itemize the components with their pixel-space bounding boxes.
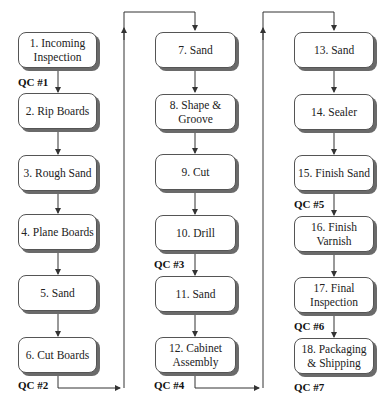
step-box-9: 9. Cut — [155, 154, 236, 190]
step-label: 3. Rough Sand — [23, 166, 91, 180]
flowchart-canvas: 1. Incoming Inspection 2. Rip Boards 3. … — [0, 0, 392, 406]
step-label: 14. Sealer — [311, 105, 357, 119]
qc-label-5: QC #5 — [294, 198, 324, 210]
step-label: 17. Final Inspection — [297, 281, 371, 309]
qc-label-6: QC #6 — [294, 320, 324, 332]
qc-label-4: QC #4 — [154, 379, 184, 391]
step-box-14: 14. Sealer — [294, 94, 374, 130]
step-box-5: 5. Sand — [18, 275, 97, 311]
step-box-15: 15. Finish Sand — [294, 155, 374, 191]
step-box-16: 16. Finish Varnish — [294, 216, 374, 252]
step-box-3: 3. Rough Sand — [18, 155, 97, 191]
step-label: 2. Rip Boards — [26, 104, 90, 118]
step-box-18: 18. Packaging & Shipping — [294, 338, 374, 374]
qc-label-7: QC #7 — [294, 381, 324, 393]
step-box-11: 11. Sand — [155, 276, 236, 312]
step-label: 18. Packaging & Shipping — [297, 342, 371, 370]
step-box-10: 10. Drill — [155, 215, 236, 251]
step-label: 9. Cut — [181, 165, 209, 179]
step-box-4: 4. Plane Boards — [18, 214, 97, 250]
step-label: 1. Incoming Inspection — [21, 36, 94, 64]
step-box-12: 12. Cabinet Assembly — [155, 337, 236, 373]
step-label: 15. Finish Sand — [298, 166, 370, 180]
step-label: 5. Sand — [40, 286, 75, 300]
step-label: 8. Shape & Groove — [158, 98, 233, 126]
qc-label-3: QC #3 — [154, 258, 184, 270]
step-label: 7. Sand — [178, 43, 213, 57]
step-box-13: 13. Sand — [294, 32, 374, 68]
step-label: 12. Cabinet Assembly — [158, 341, 233, 369]
qc-label-2: QC #2 — [18, 379, 48, 391]
step-box-1: 1. Incoming Inspection — [18, 32, 97, 68]
step-label: 6. Cut Boards — [26, 348, 90, 362]
step-box-17: 17. Final Inspection — [294, 277, 374, 313]
step-box-8: 8. Shape & Groove — [155, 94, 236, 130]
step-label: 11. Sand — [176, 287, 216, 301]
step-label: 16. Finish Varnish — [297, 220, 371, 248]
step-box-6: 6. Cut Boards — [18, 337, 97, 373]
qc-label-1: QC #1 — [18, 76, 48, 88]
step-box-2: 2. Rip Boards — [18, 93, 97, 129]
step-label: 4. Plane Boards — [21, 225, 94, 239]
step-label: 10. Drill — [176, 226, 215, 240]
step-label: 13. Sand — [314, 43, 354, 57]
step-box-7: 7. Sand — [155, 32, 236, 68]
